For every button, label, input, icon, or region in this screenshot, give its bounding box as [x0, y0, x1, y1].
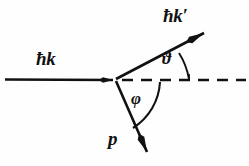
- recoil-angle-label: φ: [131, 90, 141, 107]
- reference-axis-dashed: [122, 74, 246, 80]
- scattered-photon-label: ħk′: [163, 6, 188, 25]
- incident-photon-arrow: [5, 80, 113, 81]
- incident-photon-label: ħk: [36, 49, 55, 68]
- scattering-angle-label: ϑ: [162, 50, 171, 67]
- compton-scattering-figure: ħk ħk′ p ϑ φ: [0, 0, 249, 166]
- electron-momentum-label: p: [108, 129, 117, 148]
- scattered-photon-vector: [116, 33, 204, 79]
- scattering-angle-arc: [179, 53, 189, 79]
- diagram-canvas: [0, 0, 249, 166]
- incident-photon-vector: [5, 80, 113, 81]
- scattered-photon-arrow: [116, 33, 204, 79]
